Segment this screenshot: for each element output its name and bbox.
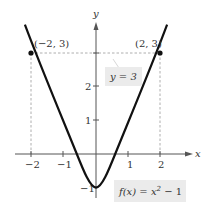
y3-label: y = 3 [109,71,137,82]
point-minus2-3 [28,50,33,55]
point-label-right: (2, 3) [135,38,162,49]
x-axis-label: x [195,148,201,159]
point-label-left: (−2, 3) [34,38,69,49]
x-tick-label: 2 [158,159,164,170]
function-label: f(x) = x2 − 1 [118,185,182,197]
function-plot: −2 −1 1 2 2 1 −1 x y (−2, 3) (2, 3) y = … [0,0,213,210]
x-axis-arrow-icon [185,152,193,157]
y3-label-leader [113,59,119,68]
x-tick-label: −2 [25,159,40,170]
y-axis-label: y [92,8,99,19]
y-tick-label: 1 [85,115,91,126]
x-tick-label: −1 [57,159,72,170]
point-2-3 [157,50,162,55]
y-tick-label: 2 [85,81,91,92]
y-axis-arrow-icon [94,22,99,30]
x-tick-label: 1 [127,159,133,170]
